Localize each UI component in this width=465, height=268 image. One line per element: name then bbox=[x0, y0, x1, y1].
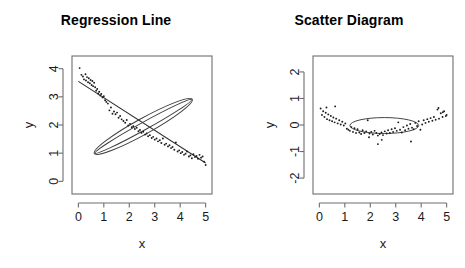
data-point bbox=[357, 128, 359, 130]
x-axis-tick-label: 0 bbox=[75, 210, 82, 224]
data-point bbox=[104, 99, 106, 101]
data-point bbox=[410, 141, 412, 143]
data-point bbox=[396, 130, 398, 132]
data-point bbox=[92, 85, 94, 87]
data-point bbox=[377, 143, 379, 145]
data-point bbox=[175, 142, 177, 144]
data-point bbox=[368, 136, 370, 138]
data-point bbox=[399, 129, 401, 131]
data-point bbox=[381, 131, 383, 133]
data-point bbox=[203, 161, 205, 163]
plot-panel-regression-line: Regression Line 01234501234xy bbox=[0, 0, 232, 268]
data-point bbox=[397, 121, 399, 123]
data-point bbox=[392, 131, 394, 133]
x-axis-tick-label: 4 bbox=[177, 210, 184, 224]
data-point bbox=[112, 113, 114, 115]
x-axis-tick-label: 2 bbox=[367, 210, 374, 224]
data-point bbox=[426, 118, 428, 120]
regression-line-plot: 01234501234xy bbox=[0, 0, 232, 268]
data-point bbox=[126, 119, 128, 121]
data-point bbox=[167, 145, 169, 147]
data-point bbox=[200, 157, 202, 159]
data-point bbox=[386, 133, 388, 135]
data-point bbox=[377, 135, 379, 137]
x-axis-title: x bbox=[139, 236, 146, 251]
data-point bbox=[381, 139, 383, 141]
data-point bbox=[326, 118, 328, 120]
y-axis-tick-label: 0 bbox=[288, 121, 302, 128]
figure-canvas: Regression Line 01234501234xy Scatter Di… bbox=[0, 0, 465, 268]
data-point bbox=[330, 115, 332, 117]
y-axis-tick-label: -2 bbox=[288, 172, 302, 183]
data-point bbox=[85, 73, 87, 75]
data-point bbox=[100, 93, 102, 95]
data-point bbox=[408, 128, 410, 130]
data-point bbox=[438, 118, 440, 120]
data-point bbox=[327, 113, 329, 115]
data-point bbox=[338, 119, 340, 121]
data-point bbox=[82, 76, 84, 78]
x-axis-tick-label: 2 bbox=[126, 210, 133, 224]
data-point bbox=[431, 120, 433, 122]
data-point bbox=[94, 86, 96, 88]
plot-frame bbox=[313, 56, 453, 194]
x-axis-tick-label: 3 bbox=[392, 210, 399, 224]
data-point bbox=[144, 134, 146, 136]
data-point bbox=[122, 120, 124, 122]
data-point bbox=[352, 131, 354, 133]
data-point bbox=[355, 132, 357, 134]
data-point bbox=[205, 164, 207, 166]
data-point bbox=[409, 123, 411, 125]
data-point bbox=[98, 91, 100, 93]
data-point bbox=[132, 125, 134, 127]
data-point bbox=[136, 127, 138, 129]
plot-panel-scatter-diagram: Scatter Diagram 012345-2-1012xy bbox=[233, 0, 465, 268]
data-point bbox=[372, 134, 374, 136]
data-point bbox=[181, 151, 183, 153]
data-point bbox=[124, 122, 126, 124]
data-point bbox=[80, 74, 82, 76]
data-point bbox=[428, 121, 430, 123]
data-point bbox=[152, 136, 154, 138]
data-point bbox=[370, 131, 372, 133]
data-point bbox=[423, 119, 425, 121]
data-point bbox=[137, 130, 139, 132]
data-point bbox=[430, 117, 432, 119]
data-point bbox=[322, 110, 324, 112]
data-point bbox=[173, 149, 175, 151]
data-point bbox=[369, 133, 371, 135]
data-point bbox=[350, 126, 352, 128]
data-point bbox=[354, 127, 356, 129]
x-axis-tick-label: 4 bbox=[418, 210, 425, 224]
data-point bbox=[202, 156, 204, 158]
data-point bbox=[438, 107, 440, 109]
data-point bbox=[320, 108, 322, 110]
x-axis-tick-label: 5 bbox=[202, 210, 209, 224]
data-point bbox=[91, 84, 93, 86]
data-point bbox=[340, 124, 342, 126]
data-point bbox=[177, 151, 179, 153]
data-point bbox=[196, 155, 198, 157]
data-point bbox=[365, 130, 367, 132]
data-point bbox=[391, 128, 393, 130]
data-point bbox=[172, 146, 174, 148]
data-point bbox=[116, 112, 118, 114]
y-axis-title: y bbox=[21, 121, 36, 128]
x-axis-tick-label: 5 bbox=[443, 210, 450, 224]
y-axis-tick-label: 2 bbox=[47, 121, 61, 128]
data-point bbox=[324, 116, 326, 118]
data-point bbox=[87, 81, 89, 83]
data-point bbox=[115, 113, 117, 115]
data-point bbox=[185, 153, 187, 155]
x-axis-title: x bbox=[380, 236, 387, 251]
data-point bbox=[97, 93, 99, 95]
data-point bbox=[105, 101, 107, 103]
data-point bbox=[433, 116, 435, 118]
y-axis-tick-label: -1 bbox=[288, 146, 302, 157]
data-point bbox=[141, 132, 143, 134]
data-layer bbox=[78, 67, 206, 166]
data-point bbox=[134, 128, 136, 130]
data-point bbox=[331, 120, 333, 122]
data-point bbox=[375, 132, 377, 134]
data-point bbox=[154, 139, 156, 141]
